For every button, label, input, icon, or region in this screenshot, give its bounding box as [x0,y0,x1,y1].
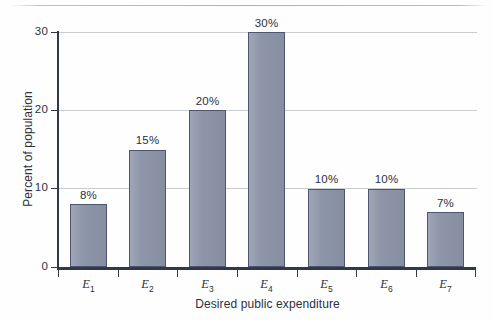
x-axis-category-label-E2: E2 [129,277,166,294]
x-axis-tick-2 [177,270,178,277]
y-axis-line [57,31,59,268]
category-letter-E2: E [141,277,149,291]
y-axis-tick-10 [51,188,57,189]
x-axis-category-label-E1: E1 [70,277,107,294]
category-letter-E5: E [320,277,328,291]
x-axis-category-label-E4: E4 [248,277,285,294]
category-letter-E6: E [380,277,388,291]
category-letter-E1: E [82,277,90,291]
category-subscript-E7: 7 [447,284,452,294]
y-axis-tick-20 [51,110,57,111]
x-axis-tick-6 [416,270,417,277]
category-subscript-E3: 3 [209,284,214,294]
x-axis-category-label-E3: E3 [189,277,226,294]
bar-E2[interactable] [129,150,166,268]
x-axis-tick-0 [58,270,59,277]
bar-E3[interactable] [189,110,226,267]
bar-value-label-E6: 10% [368,173,405,185]
x-axis-line [57,267,476,270]
category-letter-E3: E [201,277,209,291]
bar-chart-figure: 30 20 10 0 8% 15% 20% 30% 10% [0,0,493,321]
bar-value-label-E3: 20% [189,95,226,107]
y-axis-tick-30 [51,32,57,33]
x-axis-tick-5 [356,270,357,277]
x-axis-title: Desired public expenditure [58,297,477,311]
y-axis-tick-0 [51,267,57,268]
bar-value-label-E7: 7% [427,197,464,209]
x-axis-category-label-E7: E7 [427,277,464,294]
bar-value-label-E2: 15% [129,134,166,146]
bar-E7[interactable] [427,212,464,267]
bar-value-label-E4: 30% [248,17,285,29]
x-axis-category-label-E6: E6 [368,277,405,294]
bar-E1[interactable] [70,204,107,267]
category-letter-E7: E [439,277,447,291]
bar-E5[interactable] [308,189,345,267]
bar-value-label-E5: 10% [308,173,345,185]
plot-area: 30 20 10 0 8% 15% 20% 30% 10% [0,0,493,321]
x-axis-category-label-E5: E5 [308,277,345,294]
category-subscript-E1: 1 [90,284,95,294]
x-axis-tick-4 [297,270,298,277]
category-subscript-E4: 4 [268,284,273,294]
category-subscript-E6: 6 [388,284,393,294]
x-axis-tick-1 [118,270,119,277]
y-axis-tick-label-0: 0 [14,260,48,272]
x-axis-tick-7 [475,270,476,277]
bar-E6[interactable] [368,189,405,267]
category-subscript-E2: 2 [149,284,154,294]
y-axis-title: Percent of population [21,59,35,239]
y-axis-tick-label-30: 30 [14,25,48,37]
x-axis-tick-3 [237,270,238,277]
category-letter-E4: E [260,277,268,291]
bar-value-label-E1: 8% [70,189,107,201]
category-subscript-E5: 5 [328,284,333,294]
bar-E4[interactable] [248,32,285,267]
